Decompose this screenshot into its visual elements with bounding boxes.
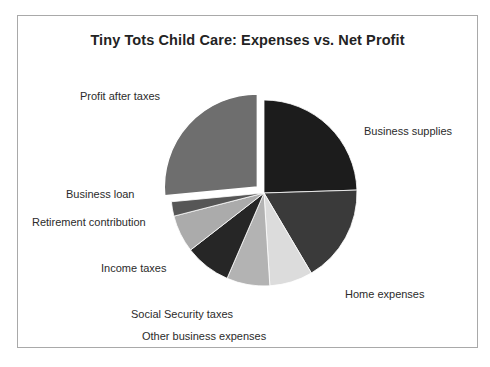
slice-label-income-taxes: Income taxes [101,262,166,274]
slice-label-other-business-expenses: Other business expenses [142,330,266,342]
pie-slice-group [164,94,357,286]
slice-label-retirement-contribution: Retirement contribution [32,216,146,228]
slice-label-home-expenses: Home expenses [345,288,425,300]
slice-label-profit-after-taxes: Profit after taxes [80,90,160,102]
pie-slice-business-supplies[interactable] [264,100,357,193]
slice-label-business-loan: Business loan [66,188,135,200]
chart-frame: Tiny Tots Child Care: Expenses vs. Net P… [17,15,478,348]
pie-chart: Profit after taxes Business supplies Hom… [18,16,479,349]
slice-label-business-supplies: Business supplies [364,125,452,137]
pie-slice-profit-after-taxes[interactable] [164,94,257,196]
slice-label-social-security-taxes: Social Security taxes [131,308,233,320]
